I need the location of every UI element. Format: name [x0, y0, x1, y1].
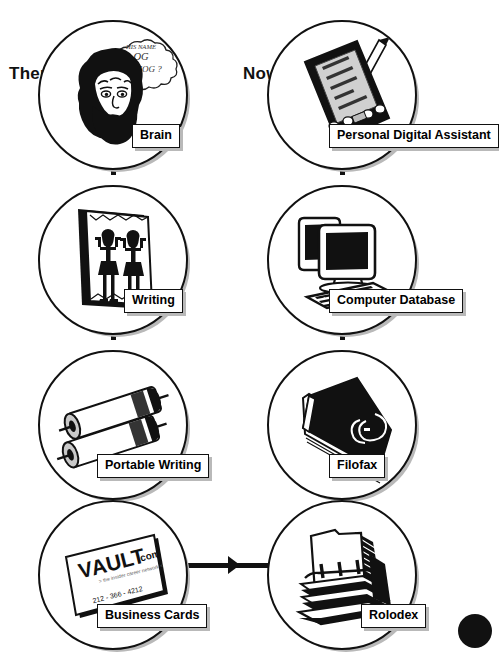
node-disc: V AULT .com > the insider career network… — [38, 500, 188, 650]
node-rolodex[interactable]: Rolodex — [267, 500, 419, 652]
caption-writing: Writing — [124, 289, 183, 313]
node-disc — [267, 185, 417, 335]
caption-portable-writing: Portable Writing — [97, 454, 209, 478]
node-computer-database[interactable]: Computer Database — [267, 185, 419, 337]
caption-brain: Brain — [132, 124, 180, 148]
arrow-right-bridge — [228, 556, 240, 574]
node-brain[interactable]: HIS NAME OG OR MOG ? — [38, 20, 190, 172]
node-writing[interactable]: Writing — [38, 185, 190, 337]
node-disc — [38, 185, 188, 335]
caption-pda: Personal Digital Assistant — [329, 124, 499, 148]
node-disc — [38, 350, 188, 500]
node-portable-writing[interactable]: Portable Writing — [38, 350, 190, 502]
node-disc — [267, 500, 417, 650]
node-filofax[interactable]: Filofax — [267, 350, 419, 502]
caption-filofax: Filofax — [329, 454, 385, 478]
caption-rolodex: Rolodex — [361, 604, 426, 628]
caption-computer-database: Computer Database — [329, 289, 463, 313]
node-business-cards[interactable]: V AULT .com > the insider career network… — [38, 500, 190, 652]
corner-dot — [458, 614, 492, 648]
node-disc — [267, 20, 417, 170]
caption-business-cards: Business Cards — [97, 604, 207, 628]
node-disc — [267, 350, 417, 500]
node-disc: HIS NAME OG OR MOG ? — [38, 20, 188, 170]
svg-text:HIS NAME: HIS NAME — [125, 43, 156, 50]
node-pda[interactable]: Personal Digital Assistant — [267, 20, 419, 172]
